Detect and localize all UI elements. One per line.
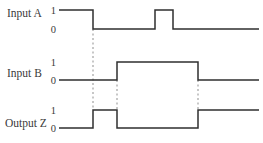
waveform-input-a: [59, 10, 259, 29]
level-high-label-input-a: 1: [51, 5, 56, 16]
signal-name-label-input-b: Input B: [7, 67, 42, 80]
signal-name-label-input-a: Input A: [7, 7, 43, 20]
waveform-input-b: [59, 62, 259, 80]
waveform-canvas: Input A10Input B10Output Z10: [0, 0, 263, 143]
waveform-output-z: [59, 110, 259, 128]
level-low-label-input-b: 0: [51, 75, 56, 86]
timing-diagram: Input A10Input B10Output Z10: [0, 0, 263, 143]
signal-name-label-output-z: Output Z: [5, 117, 47, 130]
level-low-label-output-z: 0: [51, 123, 56, 134]
level-low-label-input-a: 0: [51, 24, 56, 35]
level-high-label-output-z: 1: [51, 105, 56, 116]
level-high-label-input-b: 1: [51, 57, 56, 68]
